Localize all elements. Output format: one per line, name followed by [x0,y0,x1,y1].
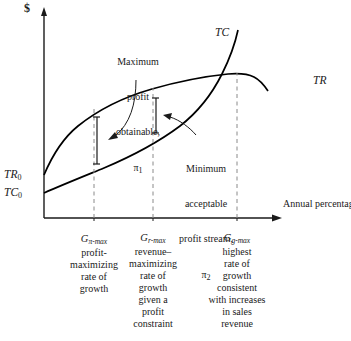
x-tick-desc-line: revenue– [110,246,196,258]
annotation-max-profit-line2: profit [92,91,184,103]
x-tick-desc-line: revenue [194,318,280,330]
tr-curve-label: TR [313,74,326,86]
x-tick-desc-line: growth [110,282,196,294]
x-tick-desc-line: given a [110,294,196,306]
annotation-max-profit-line3: obtainable, [92,126,184,138]
annotation-min-profit-line2: acceptable [160,198,252,210]
g-r-max-subscript: r-max [148,236,166,245]
annotation-min-profit-line1: Minimum [160,163,252,175]
x-tick-group-g-r-max: Gr-max revenue– maximizing rate of growt… [110,232,196,330]
x-tick-desc-line: maximizing [110,258,196,270]
x-tick-label-g-g-max: Gg-max [194,232,280,245]
x-axis-caption: Annual percentage rate of growth in outp… [283,198,349,210]
growth-model-figure: $ TC TR TR0 TC0 Maximum profit obtainabl… [0,0,351,341]
x-tick-group-g-g-max: Gg-max highest rate of growth consistent… [194,232,280,330]
x-tick-desc-line: in sales [194,306,280,318]
tc0-intercept-label: TC0 [4,186,22,200]
tr0-intercept-label: TR0 [4,168,21,182]
annotation-max-profit-line1: Maximum [92,56,184,68]
tr0-symbol: TR [4,168,17,180]
x-tick-desc-line: rate of [110,270,196,282]
x-tick-desc-line: profit [110,306,196,318]
g-pi-max-subscript: π-max [88,237,107,246]
g-r-max-symbol: G [140,232,148,243]
tc0-symbol: TC [4,186,18,198]
y-axis-label: $ [24,2,30,15]
g-g-max-subscript: g-max [231,236,250,245]
x-tick-desc-line: highest [194,246,280,258]
x-tick-desc-line: rate of [194,258,280,270]
x-tick-label-g-r-max: Gr-max [110,232,196,245]
tr0-subscript: 0 [17,173,21,182]
x-tick-desc-line: consistent [194,282,280,294]
tc-curve-label: TC [215,26,229,38]
x-tick-desc-line: growth [194,270,280,282]
tc0-subscript: 0 [18,191,22,200]
y-axis [41,7,47,218]
x-tick-desc-line: with increases [194,294,280,306]
x-tick-desc-line: constraint [110,318,196,330]
pi1-subscript: 1 [139,166,143,175]
